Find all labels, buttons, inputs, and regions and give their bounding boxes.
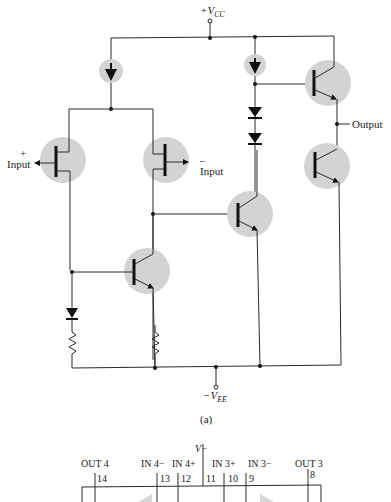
pin-label-in4-minus: IN 4− <box>141 458 165 469</box>
pin-number: 14 <box>97 473 107 484</box>
vcc-label: +VCC <box>200 4 225 19</box>
diode-icon <box>248 133 262 144</box>
pin-number: 10 <box>228 473 238 484</box>
npn-transistor-icon <box>305 36 351 106</box>
output-label: Output <box>352 118 383 130</box>
pinout-diagram: V− OUT 4 IN 4− IN 4+ IN 3+ IN 3− OUT 3 1… <box>81 443 323 502</box>
v-minus-label: V− <box>195 443 208 454</box>
pin-number: 11 <box>206 473 216 484</box>
vee-label: −VEE <box>203 389 227 404</box>
vee-terminal: −VEE <box>203 367 227 404</box>
pin-number: 13 <box>160 473 170 484</box>
pin-label-in3-minus: IN 3− <box>248 458 272 469</box>
input-minus-label: Input <box>200 165 223 177</box>
npn-transistor-icon <box>227 150 273 366</box>
pin-label-in3-plus: IN 3+ <box>212 458 236 469</box>
vee-rail <box>72 365 341 368</box>
input-plus-label: Input <box>7 158 30 170</box>
resistor-icon <box>69 319 76 368</box>
vcc-terminal: +VCC <box>200 4 225 38</box>
pin-label-in4-plus: IN 4+ <box>172 458 196 469</box>
diode-icon <box>66 272 78 319</box>
current-source-icon <box>244 37 266 84</box>
vcc-rail <box>111 36 334 38</box>
jfet-icon <box>35 109 86 270</box>
pnp-transistor-icon <box>304 143 350 365</box>
pin-number: 12 <box>181 473 191 484</box>
current-source-icon <box>99 38 123 109</box>
pin-label-out3: OUT 3 <box>295 458 323 469</box>
pin-number: 8 <box>310 469 315 480</box>
jfet-icon <box>143 109 189 360</box>
pin-number: 9 <box>249 473 254 484</box>
pin-label-out4: OUT 4 <box>81 458 109 469</box>
figure-caption: (a) <box>200 413 213 426</box>
schematic-figure: +VCC + Input − Input <box>0 0 391 502</box>
